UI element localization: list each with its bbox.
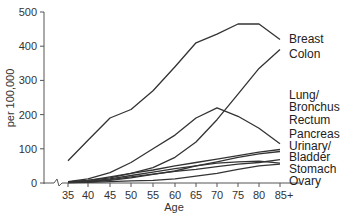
series-label: Ovary — [289, 174, 321, 188]
series-label: Breast — [289, 32, 324, 46]
series-line-breast — [68, 24, 280, 161]
y-tick-label: 500 — [19, 6, 37, 18]
y-tick-label: 0 — [31, 177, 37, 189]
y-tick-label: 100 — [19, 143, 37, 155]
y-axis-title: per 100,000 — [4, 69, 16, 128]
x-tick-label: 65 — [190, 189, 202, 201]
x-tick-label: 75 — [232, 189, 244, 201]
line-chart: 01002003004005003540455055606570758085+ … — [0, 0, 345, 222]
x-tick-label: 85+ — [275, 189, 294, 201]
series-label: Bronchus — [289, 100, 340, 114]
x-tick-label: 60 — [169, 189, 181, 201]
series-label: Rectum — [289, 113, 330, 127]
series-labels: BreastColonLung/BronchusRectumPancreasUr… — [289, 32, 340, 188]
y-tick-label: 400 — [19, 40, 37, 52]
x-tick-label: 70 — [211, 189, 223, 201]
series-label: Colon — [289, 47, 320, 61]
series-lines — [68, 24, 280, 183]
x-tick-label: 80 — [253, 189, 265, 201]
series-line-rectum — [68, 150, 280, 183]
x-tick-label: 40 — [82, 189, 94, 201]
y-tick-label: 300 — [19, 74, 37, 86]
y-tick-label: 200 — [19, 109, 37, 121]
x-axis-title: Age — [164, 201, 184, 213]
x-tick-label: 35 — [62, 189, 74, 201]
x-tick-label: 50 — [125, 189, 137, 201]
x-tick-label: 55 — [147, 189, 159, 201]
series-line-colon — [68, 50, 280, 182]
x-tick-label: 45 — [104, 189, 116, 201]
